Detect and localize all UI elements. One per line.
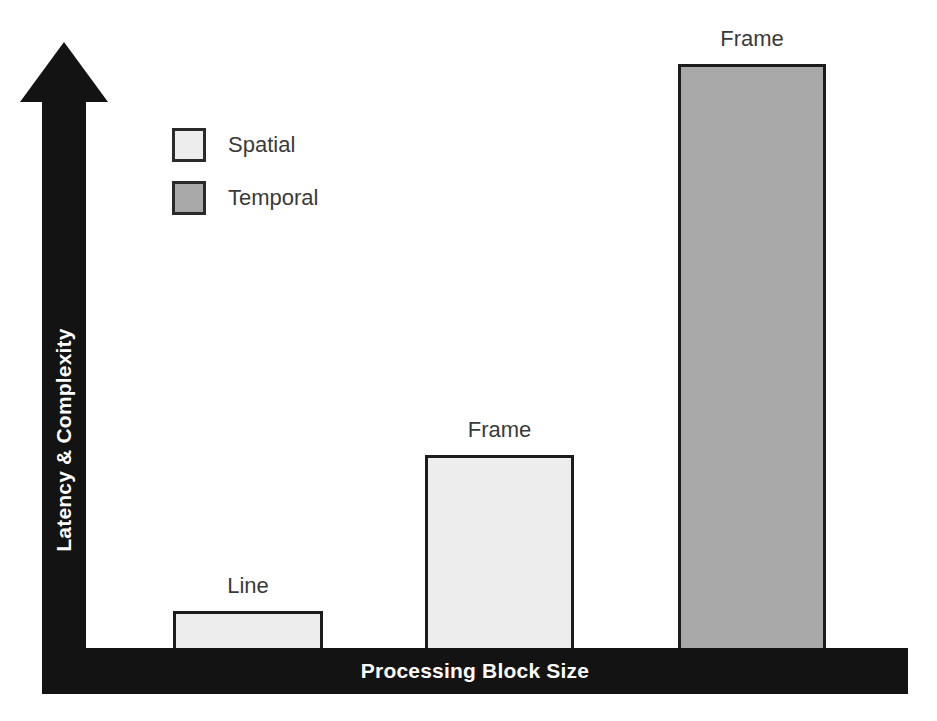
y-axis-arrow	[42, 42, 86, 694]
legend-swatch-spatial	[172, 128, 206, 162]
y-axis-arrowhead-icon	[20, 42, 108, 102]
legend-item-temporal: Temporal	[172, 178, 318, 218]
bar-caption-0: Line	[173, 573, 323, 599]
legend-label-temporal: Temporal	[228, 185, 318, 211]
bar-caption-2: Frame	[678, 26, 826, 52]
x-axis-label-text: Processing Block Size	[361, 659, 589, 683]
y-axis-shaft	[42, 101, 86, 694]
bar-chart: Latency & Complexity Line Frame Frame Pr…	[0, 0, 937, 721]
legend: Spatial Temporal	[172, 125, 318, 231]
bar-frame-spatial	[425, 455, 574, 651]
legend-swatch-temporal	[172, 181, 206, 215]
bar-caption-1: Frame	[425, 417, 574, 443]
legend-item-spatial: Spatial	[172, 125, 318, 165]
bar-frame-temporal	[678, 64, 826, 651]
bar-line-spatial	[173, 611, 323, 651]
x-axis-bar: Processing Block Size	[42, 648, 908, 694]
legend-label-spatial: Spatial	[228, 132, 295, 158]
